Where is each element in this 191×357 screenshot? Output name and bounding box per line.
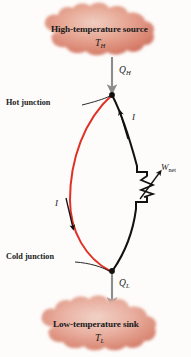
work-symbol-base: W bbox=[161, 162, 169, 172]
source-title: High-temperature source bbox=[51, 25, 148, 34]
source-temperature-symbol: TH bbox=[95, 38, 105, 49]
cold-junction-node bbox=[109, 268, 115, 274]
heat-output-label: QL bbox=[119, 279, 130, 289]
cold-junction-label: Cold junction bbox=[6, 253, 54, 261]
source-symbol-subscript: H bbox=[101, 42, 106, 49]
right-wire-black bbox=[112, 95, 147, 270]
left-wire-red bbox=[70, 95, 112, 271]
load-resistor bbox=[140, 172, 160, 199]
heat-output-symbol-base: Q bbox=[119, 278, 126, 288]
current-label-left: I bbox=[55, 199, 58, 208]
sink-title: Low-temperature sink bbox=[53, 320, 139, 329]
current-label-right: I bbox=[132, 113, 135, 122]
work-symbol-subscript: net bbox=[169, 166, 177, 173]
sink-symbol-subscript: L bbox=[101, 337, 105, 344]
hot-junction-label: Hot junction bbox=[6, 99, 50, 107]
sink-temperature-symbol: TL bbox=[95, 333, 104, 344]
heat-input-label: QH bbox=[119, 66, 131, 76]
thermoelectric-generator-figure bbox=[0, 0, 191, 357]
heat-input-subscript: H bbox=[126, 69, 131, 76]
heat-output-subscript: L bbox=[126, 282, 130, 289]
heat-input-symbol-base: Q bbox=[119, 65, 126, 75]
hot-junction-node bbox=[109, 92, 115, 98]
current-arrow-right-up bbox=[120, 112, 128, 139]
work-output-label: Wnet bbox=[161, 163, 176, 173]
